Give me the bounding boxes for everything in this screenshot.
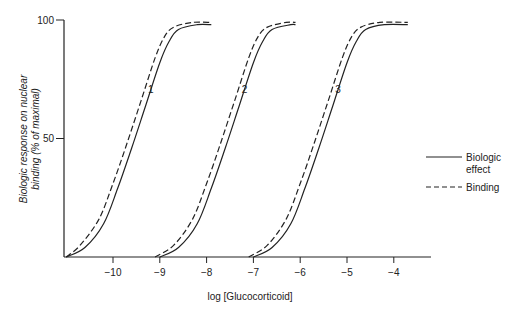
curves — [66, 22, 408, 257]
x-tick-label: −9 — [154, 267, 166, 278]
x-tick-label: −8 — [201, 267, 213, 278]
curve-label: 2 — [242, 84, 248, 95]
x-tick-label: −4 — [388, 267, 400, 278]
legend-label: Biologic — [466, 152, 501, 163]
axes: −10−9−8−7−6−5−450100 — [37, 15, 431, 279]
y-tick-label: 100 — [37, 15, 54, 26]
legend-label: effect — [466, 164, 490, 175]
binding-curve-2 — [155, 22, 295, 257]
biologic-effect-curve-3 — [253, 24, 407, 257]
y-axis-title-line: Biologic response on nuclear — [18, 74, 29, 203]
x-tick-label: −5 — [341, 267, 353, 278]
x-axis-title: log [Glucocorticoid] — [207, 291, 292, 302]
biologic-effect-curve-2 — [160, 24, 296, 257]
legend: BiologiceffectBinding — [426, 152, 501, 193]
biologic-effect-curve-1 — [66, 24, 211, 257]
y-axis-title-line: binding (% of maximal) — [30, 88, 41, 190]
y-axis-title: Biologic response on nuclearbinding (% o… — [18, 74, 41, 203]
binding-curve-1 — [66, 22, 211, 257]
curve-labels: 123 — [148, 84, 341, 95]
curve-label: 3 — [335, 84, 341, 95]
x-tick-label: −6 — [294, 267, 306, 278]
binding-curve-3 — [249, 22, 408, 257]
x-tick-label: −10 — [105, 267, 122, 278]
y-tick-label: 50 — [43, 133, 55, 144]
curve-label: 1 — [148, 84, 154, 95]
dose-response-chart: −10−9−8−7−6−5−450100 123 BiologiceffectB… — [0, 0, 511, 314]
x-tick-label: −7 — [248, 267, 260, 278]
legend-label: Binding — [466, 182, 499, 193]
